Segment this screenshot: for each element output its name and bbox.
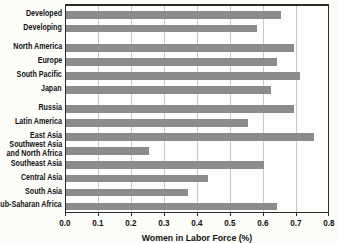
- bar-sub-saharan-africa: [66, 203, 277, 211]
- x-tick-label-0.5: 0.5: [224, 218, 235, 228]
- category-label-south-pacific: South Pacific: [17, 69, 62, 78]
- x-tick-label-0.6: 0.6: [257, 218, 268, 228]
- x-tick-mark-0.6: [263, 213, 264, 216]
- bar-latin-america: [66, 119, 248, 127]
- bar-southwest-asia-and-north-africa: [66, 147, 149, 155]
- x-tick-label-0.1: 0.1: [92, 218, 103, 228]
- bar-europe: [66, 58, 277, 66]
- category-label-central-asia: Central Asia: [21, 172, 62, 181]
- bar-developing: [66, 25, 257, 33]
- x-tick-mark-0.4: [197, 213, 198, 216]
- x-tick-mark-0.7: [296, 213, 297, 216]
- category-label-sub-saharan-africa: Sub-Saharan Africa: [0, 200, 62, 209]
- category-label-southeast-asia: Southeast Asia: [11, 158, 62, 167]
- x-tick-mark-0.1: [98, 213, 99, 216]
- category-label-latin-america: Latin America: [15, 117, 62, 126]
- category-label-south-asia: South Asia: [25, 186, 62, 195]
- bar-north-america: [66, 44, 294, 52]
- plot-area: [65, 4, 329, 213]
- category-label-developed: Developed: [26, 8, 62, 17]
- x-tick-label-0.3: 0.3: [158, 218, 169, 228]
- bar-developed: [66, 11, 281, 19]
- bar-south-asia: [66, 189, 188, 197]
- x-tick-mark-0.8: [328, 213, 329, 216]
- x-tick-mark-0.0: [65, 213, 66, 216]
- category-label-north-america: North America: [13, 42, 62, 51]
- category-label-southwest-asia-and-north-africa: Southwest Asiaand North Africa: [6, 140, 62, 158]
- bar-east-asia: [66, 133, 314, 141]
- bar-central-asia: [66, 175, 208, 183]
- category-label-developing: Developing: [24, 22, 62, 31]
- x-axis-title: Women in Labor Force (%): [76, 232, 319, 243]
- bar-south-pacific: [66, 72, 300, 80]
- x-tick-label-0.2: 0.2: [125, 218, 136, 228]
- x-tick-mark-0.2: [131, 213, 132, 216]
- x-tick-label-0.0: 0.0: [59, 218, 70, 228]
- category-label-russia: Russia: [39, 103, 62, 112]
- gridline-0.7: [296, 6, 297, 212]
- x-tick-label-0.8: 0.8: [323, 218, 334, 228]
- x-tick-label-0.7: 0.7: [290, 218, 301, 228]
- category-label-japan: Japan: [41, 83, 62, 92]
- x-tick-mark-0.3: [164, 213, 165, 216]
- bar-japan: [66, 86, 271, 94]
- x-tick-label-0.4: 0.4: [191, 218, 202, 228]
- category-label-europe: Europe: [37, 55, 62, 64]
- bar-russia: [66, 105, 294, 113]
- bar-southeast-asia: [66, 161, 264, 169]
- x-tick-mark-0.5: [230, 213, 231, 216]
